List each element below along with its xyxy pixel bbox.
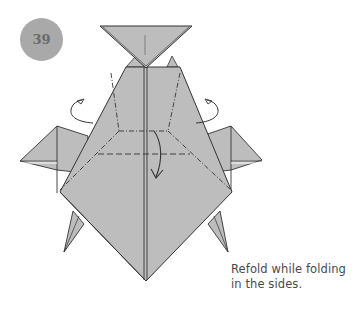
head-flap: [100, 26, 192, 68]
caption-line-2: in the sides.: [231, 277, 346, 292]
left-leg-spike: [64, 211, 84, 252]
instruction-caption: Refold while folding in the sides.: [231, 262, 346, 292]
right-leg-spike: [208, 211, 228, 252]
left-fold-behind-arrow-icon: [71, 99, 93, 123]
caption-line-1: Refold while folding: [231, 262, 346, 277]
